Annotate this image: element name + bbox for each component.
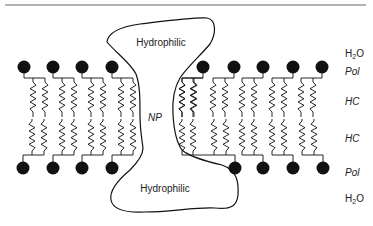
lipid-bottom-right xyxy=(269,119,300,175)
lipid-top-right xyxy=(179,61,210,118)
hydrocarbon-chain xyxy=(130,78,136,117)
bilayer-diagram: Hydrophilic Hydrophilic NP H2O Pol HC HC… xyxy=(0,0,373,226)
hydrocarbon-chain xyxy=(59,119,65,155)
lipid-bottom-left xyxy=(47,119,78,175)
hydrocarbon-chain xyxy=(239,78,245,117)
lipid-top-left xyxy=(47,61,78,118)
lipid-top-right xyxy=(298,61,329,118)
hydrocarbon-chain xyxy=(71,78,77,117)
hydrocarbon-chain xyxy=(310,78,316,117)
hydrocarbon-chain xyxy=(100,78,106,117)
hydrocarbon-chain xyxy=(118,119,124,155)
lipid-bottom-left xyxy=(76,119,107,175)
hydrocarbon-chain xyxy=(281,119,287,155)
hydrocarbon-chain xyxy=(118,78,124,117)
hydrocarbon-chain xyxy=(42,78,48,117)
lipid-top-right xyxy=(210,61,241,118)
hydrocarbon-chain xyxy=(29,119,35,155)
hydrocarbon-chain xyxy=(71,119,77,155)
lipid-top-right xyxy=(239,61,270,118)
h2o-bottom-label: H2O xyxy=(345,193,364,205)
hydrocarbon-chain xyxy=(251,78,257,117)
hydrocarbon-chain xyxy=(190,119,196,155)
bottom-hydrophilic-label: Hydrophilic xyxy=(140,183,189,194)
lipid-bottom-right xyxy=(211,119,242,175)
hydrocarbon-chain xyxy=(210,78,216,117)
hydrocarbon-chain xyxy=(251,119,257,155)
lipid-bottom-right xyxy=(239,119,270,175)
hydrocarbon-chain xyxy=(239,119,245,155)
hydrocarbon-chain xyxy=(130,119,136,155)
pol-top-label: Pol xyxy=(345,66,360,77)
top-hydrophilic-label: Hydrophilic xyxy=(136,37,185,48)
lipid-top-left xyxy=(18,61,49,118)
lipid-bottom-left xyxy=(17,119,48,175)
hydrocarbon-chain xyxy=(211,119,217,155)
hydrocarbon-chain xyxy=(269,78,275,117)
hydrocarbon-chain xyxy=(88,78,94,117)
np-label: NP xyxy=(148,112,162,123)
hydrocarbon-chain xyxy=(179,78,185,117)
lipid-top-right xyxy=(269,61,300,118)
lipid-top-left xyxy=(76,61,107,118)
lipid-bottom-right xyxy=(299,119,330,175)
hydrocarbon-chain xyxy=(298,78,304,117)
hydrocarbon-chain xyxy=(88,119,94,155)
lipid-bottom-left xyxy=(106,119,137,175)
hydrocarbon-chain xyxy=(299,119,305,155)
hydrocarbon-chain xyxy=(41,119,47,155)
hydrocarbon-chain xyxy=(281,78,287,117)
hydrocarbon-chain xyxy=(30,78,36,117)
h2o-top-label: H2O xyxy=(345,48,364,60)
hydrocarbon-chain xyxy=(222,78,228,117)
lipid-top-left xyxy=(106,61,137,118)
hydrocarbon-chain xyxy=(223,119,229,155)
hydrocarbon-chain xyxy=(311,119,317,155)
hc-top-label: HC xyxy=(345,96,360,107)
hydrocarbon-chain xyxy=(59,78,65,117)
pol-bottom-label: Pol xyxy=(345,167,360,178)
hydrocarbon-chain xyxy=(100,119,106,155)
hydrocarbon-chain xyxy=(269,119,275,155)
hc-bottom-label: HC xyxy=(345,133,360,144)
